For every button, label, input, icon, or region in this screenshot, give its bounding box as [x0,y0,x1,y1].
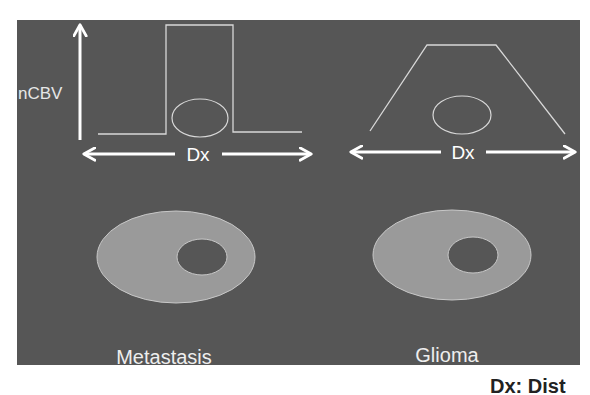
y-axis-label: nCBV [18,84,63,103]
caption-fragment: Dx: Dist [490,375,566,395]
metastasis-dx-label: Dx [186,144,210,165]
glioma-necrotic-core [448,237,498,273]
glioma-dx-label: Dx [451,142,475,163]
metastasis-label: Metastasis [116,346,212,368]
glioma-ring-lesion [373,210,531,300]
diagram-panel [17,20,580,365]
figure-caption-clipped: Dx: Dist [0,375,590,395]
glioma-label: Glioma [415,344,479,366]
metastasis-ring-lesion [97,211,255,303]
metastasis-necrotic-core [177,239,227,275]
